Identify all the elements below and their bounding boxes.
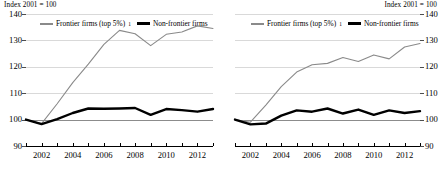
series-layer [235,14,420,146]
y-tick-label-140: 140 [9,10,22,19]
plot-area-right: 1401301201101009020022004200620082010201… [235,14,420,146]
x-tick-mark-2013 [213,143,214,146]
y-tick-mark-110 [420,93,424,94]
x-tick-label-2004: 2004 [273,151,290,160]
x-tick-label-2006: 2006 [303,151,320,160]
y-tick-label-130: 130 [425,36,438,45]
plot-area-left: 1401301201101009020022004200620082010201… [26,14,213,146]
x-tick-label-2002: 2002 [242,151,259,160]
y-tick-mark-130 [420,40,424,41]
chart-panel-left: Index 2001 = 100 Frontier firms (top 5%)… [0,0,221,172]
x-tick-label-2008: 2008 [334,151,351,160]
x-tick-label-2002: 2002 [33,151,50,160]
y-tick-mark-90 [22,146,26,147]
x-tick-label-2012: 2012 [189,151,206,160]
y-tick-mark-140 [420,14,424,15]
series-layer [26,14,213,146]
y-tick-label-90: 90 [13,142,22,151]
x-tick-label-2010: 2010 [365,151,382,160]
y-tick-label-110: 110 [425,89,438,98]
y-tick-label-110: 110 [9,89,22,98]
y-tick-mark-120 [420,67,424,68]
series-line-non-frontier-firms [26,108,213,124]
two-panel-line-chart-figure: Index 2001 = 100 Frontier firms (top 5%)… [0,0,442,172]
chart-panel-right: Index 2001 = 100 Frontier firms (top 5%)… [221,0,442,172]
y-tick-label-120: 120 [425,62,438,71]
y-tick-label-90: 90 [425,142,434,151]
x-tick-label-2010: 2010 [158,151,175,160]
y-tick-label-130: 130 [9,36,22,45]
gridline-90 [235,146,420,147]
y-tick-label-120: 120 [9,62,22,71]
y-tick-mark-100 [420,120,424,121]
x-tick-mark-2013 [420,143,421,146]
y-tick-label-100: 100 [9,115,22,124]
y-tick-label-100: 100 [425,115,438,124]
y-tick-label-140: 140 [425,10,438,19]
x-tick-label-2004: 2004 [64,151,81,160]
gridline-90 [26,146,213,147]
x-tick-label-2006: 2006 [95,151,112,160]
x-tick-label-2008: 2008 [126,151,143,160]
x-tick-label-2012: 2012 [396,151,413,160]
series-line-non-frontier-firms [235,109,420,125]
y-tick-mark-90 [420,146,424,147]
